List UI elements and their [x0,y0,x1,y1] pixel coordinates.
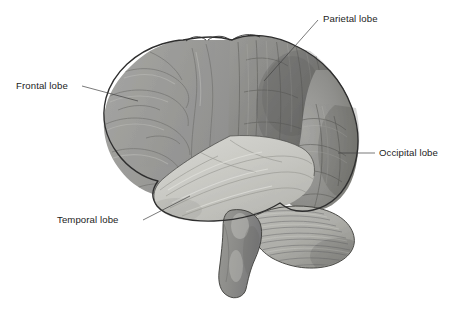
brain-illustration: Frontal lobe Parietal lobe Occipital lob… [0,0,458,310]
brainstem [219,210,262,298]
cerebrum-group [104,35,370,222]
label-temporal-lobe: Temporal lobe [57,214,119,225]
cerebellum [250,206,366,274]
brain-diagram-figure: Frontal lobe Parietal lobe Occipital lob… [0,0,458,310]
label-occipital-lobe: Occipital lobe [379,147,438,158]
label-parietal-lobe: Parietal lobe [323,13,378,24]
label-frontal-lobe: Frontal lobe [16,80,68,91]
